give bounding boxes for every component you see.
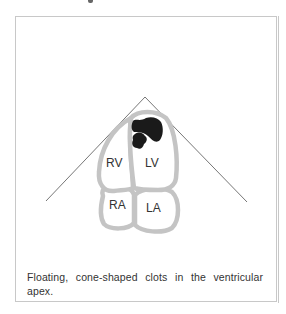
label-lv: LV: [145, 156, 159, 170]
figure-caption: Floating, cone-shaped clots in the ventr…: [27, 270, 263, 298]
label-rv: RV: [106, 156, 122, 170]
label-la: LA: [146, 201, 161, 215]
echocardiogram-diagram: RV LV RA LA: [0, 0, 286, 314]
label-ra: RA: [109, 198, 126, 212]
